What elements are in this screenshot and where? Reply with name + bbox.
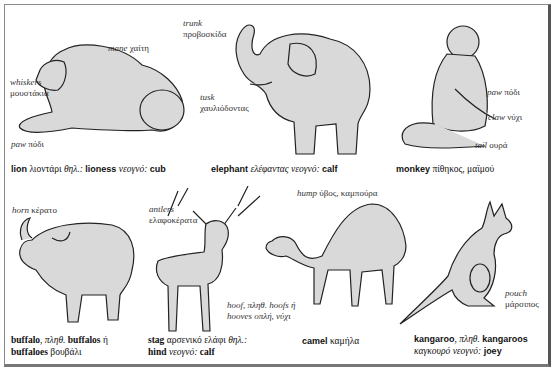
claw-gr: νύχι [507, 112, 522, 122]
kangaroo-illustration [398, 198, 518, 328]
kangaroo-en: kangaroo [414, 334, 455, 344]
hump-en: hump [297, 188, 317, 198]
camel-caption: camel καμήλα [302, 335, 359, 347]
kangaroo-caption: kangaroo, πληθ. kangaroos καγκουρό νεογν… [414, 333, 528, 357]
claw-en: claw [488, 112, 505, 122]
elephant-caption: elephant ελέφαντας νεογνό: calf [211, 163, 338, 175]
young-label: νεογνό: [453, 346, 482, 356]
buffalos: buffalos [68, 335, 101, 345]
kangaroo-pouch-label: pouchμάρσιπος [505, 288, 539, 310]
kangaroo-gr: καγκουρό [414, 346, 450, 356]
buffalo-gr: βουβάλι [50, 347, 81, 357]
monkey-illustration [395, 14, 510, 154]
trunk-gr: προβοσκίδα [183, 29, 226, 39]
monkey-claw-label: claw νύχι [488, 112, 522, 123]
elephant-gr: ελέφαντας [250, 164, 288, 174]
tusk-gr: χαυλιόδοντας [200, 103, 249, 113]
buffalo-illustration [12, 210, 147, 330]
female-abbr: θηλ.: [228, 335, 247, 345]
comma: , [455, 334, 457, 344]
paw-en: paw [11, 139, 26, 149]
monkey-paw-label: paw πόδι [487, 87, 520, 98]
plural-label: πληθ. [45, 335, 66, 345]
cub: cub [150, 164, 166, 174]
lion-caption: lion λιοντάρι θηλ.: lioness νεογνό: cub [11, 163, 166, 175]
lion-paw-label: paw πόδι [11, 139, 44, 150]
monkey-tail-label: tail ουρά [475, 140, 507, 151]
buffalo-horn-label: horn κέρατο [12, 205, 57, 216]
elephant-trunk-label: trunkπροβοσκίδα [183, 18, 226, 40]
joey: joey [484, 346, 502, 356]
stag-caption: stag αρσενικό ελάφι θηλ.: hind νεογνό: c… [148, 334, 247, 358]
young-label: νεογνό: [169, 347, 198, 357]
pouch-gr: μάρσιπος [505, 299, 539, 309]
buffalo-en: buffalo [11, 335, 40, 345]
hump-gr: ύβος, καμπούρα [319, 188, 377, 198]
calf: calf [200, 347, 215, 357]
hoof-line2: hooves οπλή, νύχι [227, 311, 291, 321]
young-label: νεογνό: [291, 164, 320, 174]
pouch-en: pouch [505, 288, 527, 298]
mane-gr: χαίτη [130, 43, 149, 53]
female-abbr: θηλ.: [64, 164, 83, 174]
mane-en: mane [108, 43, 128, 53]
whiskers-gr: μουστάκια [10, 88, 49, 98]
elephant-en: elephant [211, 164, 248, 174]
buffalo-caption: buffalo, πληθ. buffalos ή buffaloes βουβ… [11, 334, 108, 358]
camel-en: camel [302, 336, 328, 346]
trunk-en: trunk [183, 18, 202, 28]
elephant-illustration [220, 14, 380, 159]
camel-hoof-label: hoof, πληθ. hoofs ήhooves οπλή, νύχι [227, 300, 296, 322]
monkey-caption: monkey πίθηκος, μαϊμού [396, 163, 494, 175]
plural-label: πληθ. [459, 334, 480, 344]
hoof-line1: hoof, πληθ. hoofs ή [227, 300, 296, 310]
whiskers-en: whiskers [10, 77, 42, 87]
stag-en: stag [148, 335, 164, 345]
hind: hind [148, 347, 167, 357]
lion-mane-label: mane χαίτη [108, 43, 149, 54]
horn-gr: κέρατο [31, 205, 57, 215]
lion-whiskers-label: whiskersμουστάκια [10, 77, 49, 99]
lion-en: lion [11, 164, 27, 174]
buffaloes: buffaloes [11, 347, 48, 357]
lion-gr: λιοντάρι [29, 164, 61, 174]
tail-en: tail [475, 140, 487, 150]
camel-gr: καμήλα [330, 336, 359, 346]
calf: calf [322, 164, 338, 174]
comma: , [40, 335, 42, 345]
lioness: lioness [85, 164, 116, 174]
monkey-en: monkey [396, 164, 430, 174]
horn-en: horn [12, 205, 29, 215]
stag-antlers-label: antlersελαφοκέρατα [149, 204, 197, 226]
young-label: νεογνό: [119, 164, 148, 174]
antlers-en: antlers [149, 204, 174, 214]
antlers-gr: ελαφοκέρατα [149, 215, 197, 225]
stag-gr: αρσενικό ελάφι [167, 335, 226, 345]
tusk-en: tusk [200, 92, 215, 102]
elephant-tusk-label: tuskχαυλιόδοντας [200, 92, 249, 114]
paw-gr: πόδι [28, 139, 44, 149]
paw-gr: πόδι [504, 87, 520, 97]
or: ή [103, 335, 108, 345]
monkey-gr: πίθηκος, μαϊμού [432, 164, 494, 174]
tail-gr: ουρά [489, 140, 507, 150]
kangaroos: kangaroos [482, 334, 528, 344]
paw-en: paw [487, 87, 502, 97]
camel-hump-label: hump ύβος, καμπούρα [297, 188, 378, 199]
